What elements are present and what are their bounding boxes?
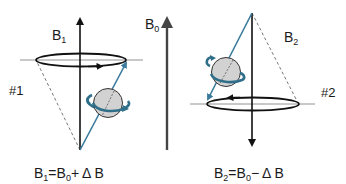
b0-field-arrow-group: B0 [145,16,167,150]
left-panel-tag: #1 [9,83,23,98]
left-equation: B1=B0+Δ B [34,165,104,183]
right-spinning-sphere-icon [207,55,244,87]
right-dashed-cone-line [252,13,297,101]
left-dashed-cone-line [37,62,80,150]
left-spinning-sphere-icon [87,89,129,118]
right-panel-tag: #2 [321,85,335,100]
right-precession-panel: B2 #2 [190,13,335,143]
precession-diagram: B1 #1 B0 B2 [0,0,346,184]
right-field-label: B2 [284,29,298,47]
left-field-label: B1 [52,27,66,45]
b0-field-label: B0 [145,16,159,34]
right-equation: B2=B0−Δ B [214,165,284,183]
left-precession-panel: B1 #1 [9,21,143,150]
